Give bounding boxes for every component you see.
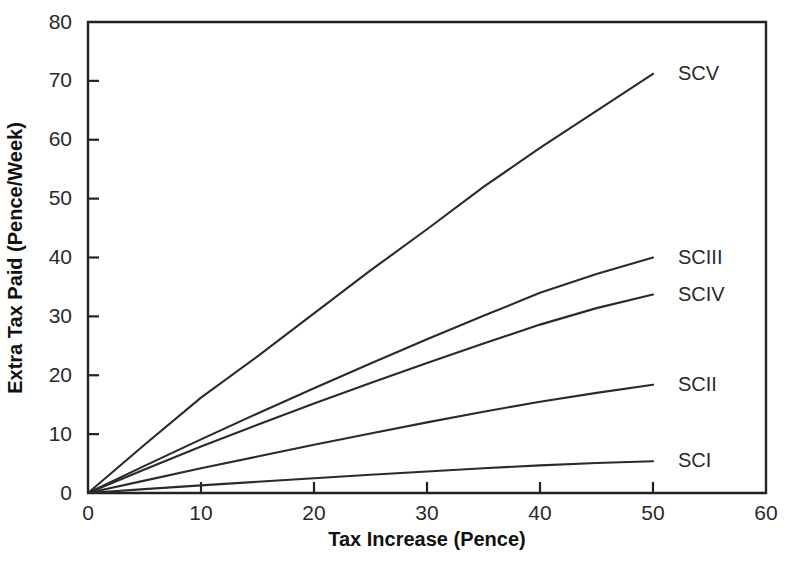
y-tick-label: 70: [49, 68, 72, 91]
chart-background: [0, 0, 787, 568]
x-tick-label: 60: [754, 501, 777, 524]
x-tick-label: 50: [641, 501, 664, 524]
y-tick-label: 10: [49, 422, 72, 445]
series-label-scv: SCV: [678, 62, 720, 84]
x-tick-label: 20: [302, 501, 325, 524]
y-tick-label: 60: [49, 127, 72, 150]
x-tick-label: 0: [82, 501, 94, 524]
series-label-sciv: SCIV: [678, 283, 725, 305]
y-tick-label: 40: [49, 245, 72, 268]
y-tick-label: 50: [49, 186, 72, 209]
y-axis-tick-labels: 01020304050607080: [49, 10, 72, 504]
y-tick-label: 80: [49, 10, 72, 33]
series-label-sci: SCI: [678, 449, 711, 471]
x-tick-label: 40: [528, 501, 551, 524]
y-tick-label: 20: [49, 363, 72, 386]
y-axis-title: Extra Tax Paid (Pence/Week): [4, 122, 26, 394]
chart-container: 01020304050607080 0102030405060 SCVSCIII…: [0, 0, 787, 568]
series-label-sciii: SCIII: [678, 246, 722, 268]
series-label-scii: SCII: [678, 373, 717, 395]
y-tick-label: 0: [60, 481, 72, 504]
x-axis-title: Tax Increase (Pence): [328, 528, 526, 550]
y-tick-label: 30: [49, 304, 72, 327]
x-tick-label: 30: [415, 501, 438, 524]
x-tick-label: 10: [189, 501, 212, 524]
line-chart: 01020304050607080 0102030405060 SCVSCIII…: [0, 0, 787, 568]
